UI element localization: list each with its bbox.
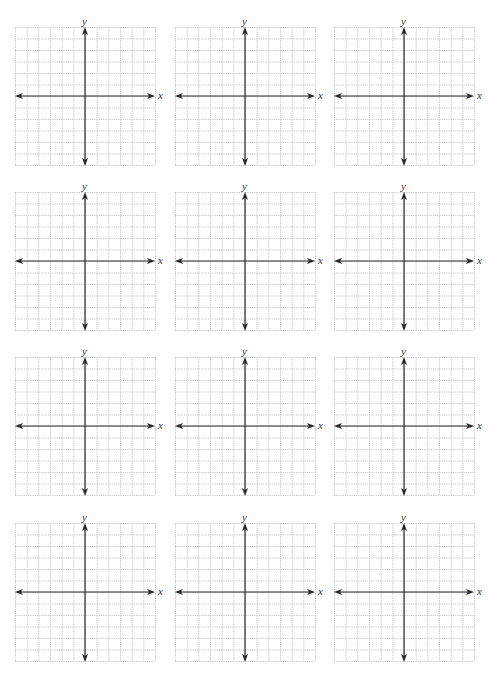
x-axis-label: x	[477, 90, 482, 101]
x-axis-label: x	[477, 420, 482, 431]
coordinate-grid: xy	[334, 192, 497, 357]
x-axis-label: x	[318, 90, 323, 101]
grid-graphic	[175, 192, 315, 330]
y-axis-label: y	[401, 16, 406, 27]
grid-graphic	[175, 27, 315, 165]
coordinate-grid: xy	[334, 523, 497, 675]
y-axis-label: y	[401, 512, 406, 523]
grid-graphic	[15, 357, 155, 495]
grid-graphic	[334, 192, 474, 330]
y-axis-label: y	[82, 512, 87, 523]
coordinate-grid: xy	[175, 27, 340, 192]
grid-graphic	[334, 523, 474, 661]
grid-graphic	[15, 27, 155, 165]
y-axis-label: y	[82, 346, 87, 357]
grid-graphic	[15, 192, 155, 330]
y-axis-label: y	[242, 346, 247, 357]
coordinate-grid: xy	[15, 192, 180, 357]
grid-graphic	[334, 357, 474, 495]
x-axis-label: x	[318, 255, 323, 266]
x-axis-label: x	[477, 255, 482, 266]
x-axis-label: x	[318, 586, 323, 597]
y-axis-label: y	[401, 181, 406, 192]
coordinate-grid: xy	[15, 523, 180, 675]
grid-graphic	[175, 357, 315, 495]
coordinate-grid: xy	[175, 523, 340, 675]
y-axis-label: y	[401, 346, 406, 357]
coordinate-grid: xy	[15, 357, 180, 522]
y-axis-label: y	[82, 16, 87, 27]
y-axis-label: y	[82, 181, 87, 192]
y-axis-label: y	[242, 512, 247, 523]
coordinate-grid: xy	[334, 27, 497, 192]
y-axis-label: y	[242, 181, 247, 192]
x-axis-label: x	[158, 255, 163, 266]
coordinate-grid: xy	[175, 192, 340, 357]
cut-off-text-line	[0, 0, 497, 5]
y-axis-label: y	[242, 16, 247, 27]
grid-graphic	[334, 27, 474, 165]
grid-graphic	[175, 523, 315, 661]
x-axis-label: x	[158, 90, 163, 101]
x-axis-label: x	[158, 586, 163, 597]
coordinate-grid: xy	[334, 357, 497, 522]
x-axis-label: x	[158, 420, 163, 431]
coordinate-grid: xy	[175, 357, 340, 522]
x-axis-label: x	[318, 420, 323, 431]
x-axis-label: x	[477, 586, 482, 597]
grid-graphic	[15, 523, 155, 661]
coordinate-grid: xy	[15, 27, 180, 192]
